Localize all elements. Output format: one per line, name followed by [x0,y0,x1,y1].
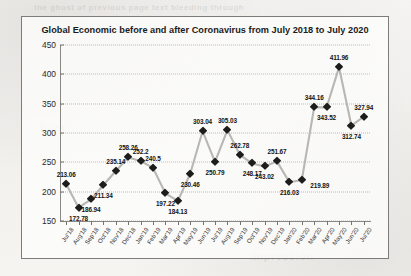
x-tick-mark [103,221,104,225]
x-tick-mark [203,221,204,225]
x-tick-mark [178,221,179,225]
x-tick-mark [327,221,328,225]
data-point-label: 243.02 [255,173,274,180]
chart-title: Global Economic before and after Coronav… [22,25,388,35]
data-point-label: 305.03 [218,117,237,124]
data-point-label: 230.46 [181,180,200,187]
x-tick-mark [277,221,278,225]
data-point-label: 303.04 [193,118,212,125]
plot-area: 150200250300350400450 213.06172.78186.94… [60,45,370,221]
data-point-label: 344.16 [305,94,324,101]
x-tick-mark [302,221,303,225]
y-tick-label: 450 [42,40,60,50]
data-point-label: 172.78 [69,214,88,221]
x-tick-mark [190,221,191,225]
data-point-label: 411.96 [330,54,349,61]
data-point-label: 186.94 [82,206,101,213]
x-tick-mark [128,221,129,225]
x-tick-mark [351,221,352,225]
x-tick-mark [116,221,117,225]
data-point-label: 235.14 [106,158,125,165]
data-point-label: 250.79 [206,168,225,175]
data-point-label: 211.34 [94,192,113,199]
x-tick-mark [165,221,166,225]
x-tick-mark [79,221,80,225]
x-tick-mark [227,221,228,225]
data-point-label: 216.03 [280,189,299,196]
y-tick-label: 350 [42,99,60,109]
x-tick-mark [265,221,266,225]
x-tick-mark [289,221,290,225]
x-tick-mark [339,221,340,225]
x-tick-mark [240,221,241,225]
x-tick-mark [364,221,365,225]
data-point-label: 219.89 [310,181,329,188]
data-point-label: 251.67 [268,148,287,155]
y-tick-label: 250 [42,157,60,167]
x-tick-label: Jul'20 [358,226,373,243]
data-point-label: 197.22 [156,200,175,207]
x-tick-mark [141,221,142,225]
y-tick-label: 400 [42,69,60,79]
x-tick-mark [252,221,253,225]
y-tick-label: 300 [42,128,60,138]
chart-frame: Global Economic before and after Coronav… [21,16,389,259]
x-tick-mark [215,221,216,225]
y-tick-label: 200 [42,187,60,197]
data-point-label: 343.52 [317,114,336,121]
data-point-label: 184.13 [168,207,187,214]
y-tick-label: 150 [42,216,60,226]
ghost-text-top: the ghost of previous page text bleeding… [34,3,244,12]
data-point-label: 312.74 [342,132,361,139]
x-tick-mark [153,221,154,225]
data-point-label: 213.06 [57,171,76,178]
x-tick-mark [66,221,67,225]
x-tick-mark [91,221,92,225]
data-point-label: 240.5 [145,154,161,161]
data-point-label: 262.78 [230,141,249,148]
x-tick-mark [314,221,315,225]
data-point-label: 327.94 [354,103,373,110]
